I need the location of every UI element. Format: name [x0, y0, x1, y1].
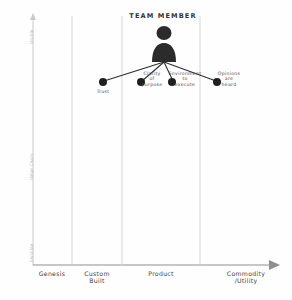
stage-label-commodity-utility: Commodity /Utility — [214, 270, 278, 284]
y-axis-arrow-icon — [30, 13, 36, 20]
person-silhouette-icon — [152, 26, 176, 62]
diagram-artwork — [0, 0, 292, 300]
anchor-title: TEAM MEMBER — [118, 13, 208, 21]
node-dot-trust — [99, 78, 107, 86]
node-label-environment-to-execute: Environment to execute — [165, 71, 205, 87]
x-axis-arrow-icon — [269, 260, 280, 270]
y-axis-label-invisible: Invisible — [29, 244, 34, 262]
y-axis-label-visible: Visible — [29, 30, 34, 44]
stage-label-product: Product — [129, 270, 193, 277]
y-axis-label-value-chain: Value Chain — [29, 154, 34, 180]
wardley-map-canvas: TEAM MEMBER Trust Clarity of purpose Env… — [0, 0, 292, 300]
node-label-opinions-are-heard: Opinions are heard — [209, 71, 249, 87]
stage-label-custom-built: Custom Built — [65, 270, 129, 284]
node-label-trust: Trust — [83, 89, 123, 94]
